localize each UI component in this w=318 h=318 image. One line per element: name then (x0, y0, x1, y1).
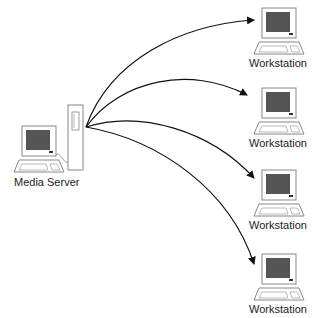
workstation-1-label: Workstation (249, 57, 307, 69)
workstation-1-icon (254, 8, 304, 54)
workstation-2-icon (254, 88, 304, 134)
diagram-canvas (0, 0, 318, 318)
workstation-3-icon (254, 170, 304, 216)
server-tower-icon (56, 105, 83, 170)
arrow-to-workstation-4 (86, 127, 254, 264)
workstation-4-label: Workstation (249, 303, 307, 315)
workstation-2-label: Workstation (249, 137, 307, 149)
arrow-to-workstation-3 (86, 121, 254, 178)
arrow-to-workstation-1 (86, 20, 254, 127)
media-server-label: Media Server (14, 176, 79, 188)
connection-arrows (86, 20, 254, 264)
workstation-3-label: Workstation (249, 219, 307, 231)
media-server-computer-icon (14, 126, 64, 172)
arrow-to-workstation-2 (86, 79, 247, 127)
workstation-4-icon (254, 254, 304, 300)
